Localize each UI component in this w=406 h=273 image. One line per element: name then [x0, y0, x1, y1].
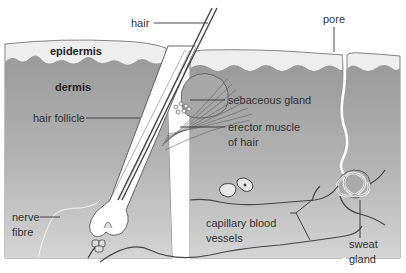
label-hair-follicle: hair follicle [33, 112, 85, 124]
label-nerve-fibre-2: fibre [12, 226, 33, 238]
label-nerve-fibre-1: nerve [12, 211, 40, 223]
label-hair: hair [131, 17, 150, 29]
label-capillary-2: vessels [206, 232, 243, 244]
label-pore: pore [323, 13, 345, 25]
label-erector-muscle-1: erector muscle [228, 121, 300, 133]
label-sebaceous-gland: sebaceous gland [228, 94, 311, 106]
label-dermis: dermis [55, 81, 91, 93]
label-sweat-gland-1: sweat [349, 238, 378, 250]
label-erector-muscle-2: of hair [228, 136, 259, 148]
skin-diagram: hair pore epidermis dermis hair follicle… [0, 0, 406, 273]
label-sweat-gland-2: gland [349, 253, 376, 265]
label-epidermis: epidermis [50, 45, 102, 57]
sebaceous-gland [181, 73, 228, 118]
label-capillary-1: capillary blood [206, 217, 276, 229]
